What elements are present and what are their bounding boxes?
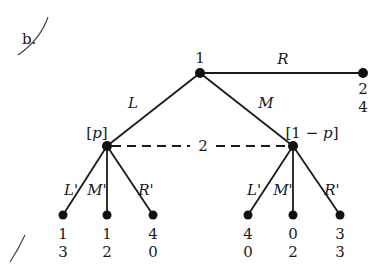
edge-M bbox=[200, 73, 293, 146]
action-label-left-Rp: R' bbox=[137, 181, 153, 199]
decision-node-left bbox=[102, 141, 112, 151]
belief-right: [1 − p] bbox=[286, 124, 339, 142]
payoff-p1: 4 bbox=[148, 225, 158, 243]
pen-mark bbox=[10, 235, 25, 262]
terminal-node-R bbox=[358, 68, 368, 78]
payoff-p2: 2 bbox=[288, 243, 298, 261]
action-label-left-Lp: L' bbox=[63, 181, 78, 199]
payoff-p1: 1 bbox=[58, 225, 68, 243]
payoff-p2: 3 bbox=[58, 243, 68, 261]
info-set-player-label: 2 bbox=[198, 137, 208, 155]
game-tree: b. 1 R L M 2 4 [p] [1 − p] 2 L' M' R' L'… bbox=[0, 0, 379, 272]
action-label-right-Mp: M' bbox=[272, 181, 292, 199]
terminal-node bbox=[59, 211, 68, 220]
terminal-node bbox=[289, 211, 298, 220]
action-label-right-Rp: R' bbox=[323, 181, 339, 199]
payoff-p1: 4 bbox=[243, 225, 253, 243]
action-label-left-Mp: M' bbox=[86, 181, 106, 199]
root-player-label: 1 bbox=[195, 49, 205, 67]
part-label: b. bbox=[22, 30, 36, 48]
decision-node-right bbox=[288, 141, 298, 151]
root-node bbox=[195, 68, 205, 78]
action-label-R: R bbox=[276, 50, 288, 68]
terminal-node bbox=[336, 211, 345, 220]
terminal-node bbox=[244, 211, 253, 220]
payoff-p2: 0 bbox=[148, 243, 158, 261]
payoff-R-p2: 4 bbox=[358, 98, 368, 116]
payoff-p1: 1 bbox=[102, 225, 112, 243]
action-label-right-Lp: L' bbox=[246, 181, 261, 199]
payoff-p1: 3 bbox=[335, 225, 345, 243]
payoff-p2: 0 bbox=[243, 243, 253, 261]
payoff-p2: 2 bbox=[102, 243, 112, 261]
terminal-node bbox=[149, 211, 158, 220]
action-label-L: L bbox=[127, 94, 138, 112]
action-label-M: M bbox=[257, 94, 274, 112]
terminal-node bbox=[103, 211, 112, 220]
belief-left: [p] bbox=[86, 124, 107, 142]
payoff-p2: 3 bbox=[335, 243, 345, 261]
edge-L bbox=[107, 73, 200, 146]
payoff-p1: 0 bbox=[288, 225, 298, 243]
payoff-R-p1: 2 bbox=[358, 80, 368, 98]
